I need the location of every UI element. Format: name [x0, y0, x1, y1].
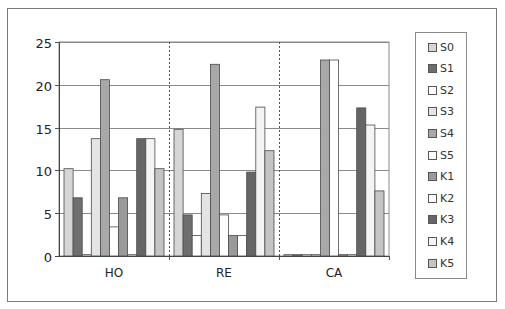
- bar-s2-ca: [302, 255, 311, 256]
- legend-swatch: [428, 107, 437, 116]
- x-category-label: RE: [216, 266, 232, 280]
- legend-swatch: [428, 43, 437, 52]
- legend-item-k3: K3: [428, 213, 454, 227]
- legend-label: S1: [440, 62, 454, 75]
- legend-item-s0: S0: [428, 40, 454, 54]
- bar-s4-ho: [100, 80, 109, 256]
- legend-item-k5: K5: [428, 256, 454, 270]
- bar-k5-re: [265, 151, 274, 256]
- legend-label: K4: [440, 235, 454, 248]
- legend-label: S0: [440, 41, 454, 54]
- bar-s0-ca: [284, 255, 293, 256]
- bar-k2-re: [238, 236, 247, 257]
- legend-item-s4: S4: [428, 126, 454, 140]
- legend-label: S5: [440, 149, 454, 162]
- legend-swatch: [428, 64, 437, 73]
- legend-label: S4: [440, 127, 454, 140]
- legend-swatch: [428, 215, 437, 224]
- bar-k3-re: [247, 172, 256, 256]
- legend-label: K3: [440, 213, 454, 226]
- legend-item-s5: S5: [428, 148, 454, 162]
- bar-s2-re: [192, 236, 201, 257]
- legend-item-k4: K4: [428, 234, 454, 248]
- y-tick-label: 25: [35, 36, 52, 51]
- legend-label: K1: [440, 170, 454, 183]
- bar-k5-ho: [155, 169, 164, 256]
- legend-swatch: [428, 259, 437, 268]
- bar-s1-ca: [293, 255, 302, 256]
- y-tick-label: 20: [35, 79, 52, 94]
- legend-swatch: [428, 151, 437, 160]
- y-tick-label: 15: [35, 122, 52, 137]
- bar-s3-ca: [311, 255, 320, 256]
- bar-k4-ho: [146, 139, 155, 256]
- bar-s2-ho: [82, 255, 91, 256]
- legend-item-s1: S1: [428, 62, 454, 76]
- bar-k3-ca: [357, 108, 366, 256]
- bar-k1-ca: [339, 255, 348, 256]
- legend: S0S1S2S3S4S5K1K2K3K4K5: [415, 32, 467, 279]
- legend-swatch: [428, 86, 437, 95]
- legend-label: K2: [440, 192, 454, 205]
- bar-s1-re: [183, 215, 192, 256]
- bar-s0-ho: [64, 169, 73, 256]
- bar-s4-re: [210, 64, 219, 256]
- legend-label: S3: [440, 105, 454, 118]
- legend-swatch: [428, 237, 437, 246]
- legend-label: K5: [440, 257, 454, 270]
- bar-s3-re: [201, 194, 210, 257]
- bar-s5-ho: [110, 227, 119, 256]
- legend-swatch: [428, 172, 437, 181]
- bar-k2-ca: [348, 255, 357, 256]
- legend-swatch: [428, 129, 437, 138]
- x-category-label: HO: [105, 266, 123, 280]
- bar-k5-ca: [375, 191, 384, 256]
- legend-swatch: [428, 194, 437, 203]
- legend-item-s2: S2: [428, 83, 454, 97]
- bar-s4-ca: [320, 60, 329, 256]
- bar-k1-ho: [119, 198, 128, 256]
- y-tick-label: 0: [44, 250, 52, 265]
- bar-k4-re: [256, 107, 265, 256]
- bar-s1-ho: [73, 198, 82, 256]
- bar-s0-re: [174, 129, 183, 256]
- bar-k3-ho: [137, 139, 146, 256]
- legend-item-s3: S3: [428, 105, 454, 119]
- bar-k4-ca: [366, 125, 375, 256]
- bar-k1-re: [229, 236, 238, 257]
- legend-label: S2: [440, 84, 454, 97]
- bars: [64, 60, 384, 256]
- y-tick-label: 10: [35, 164, 52, 179]
- bar-s5-ca: [330, 60, 339, 256]
- bar-s3-ho: [91, 139, 100, 256]
- x-category-label: CA: [326, 266, 343, 280]
- legend-item-k1: K1: [428, 170, 454, 184]
- y-tick-label: 5: [44, 207, 52, 222]
- bar-s5-re: [220, 215, 229, 256]
- bar-k2-ho: [128, 255, 137, 256]
- legend-item-k2: K2: [428, 191, 454, 205]
